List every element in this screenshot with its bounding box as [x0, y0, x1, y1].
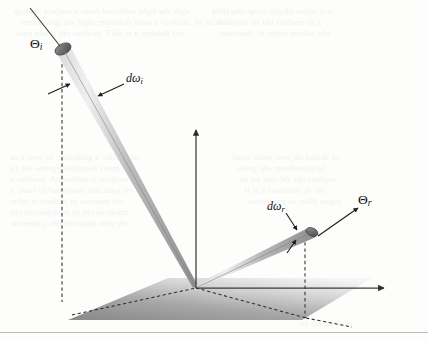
page-bottom-rule [0, 332, 428, 333]
theta-reflected-label: Θr [358, 192, 372, 208]
dashed-plane-far-right [306, 318, 352, 327]
domega-incident-label: dωi [126, 71, 143, 86]
domega-reflected-leader [286, 213, 297, 230]
domega-reflected-label: dωr [267, 199, 285, 214]
domega-incident-subscript: i [140, 76, 142, 86]
theta-reflected-symbol: Θ [358, 192, 368, 207]
theta-incident-angle-arrow [48, 84, 70, 94]
reflection-geometry-diagram [0, 0, 428, 342]
domega-reflected-subscript: r [281, 204, 284, 214]
domega-incident-leader [98, 84, 124, 96]
theta-incident-label: Θi [30, 36, 42, 52]
figure-page: ngin the light reflected from a surface … [0, 0, 428, 342]
theta-reflected-subscript: r [368, 197, 372, 208]
ground-plane [68, 278, 372, 320]
theta-incident-subscript: i [40, 41, 43, 52]
theta-reflected-arrow [318, 208, 358, 236]
ground-plane-group [68, 278, 372, 320]
theta-incident-symbol: Θ [30, 36, 40, 51]
